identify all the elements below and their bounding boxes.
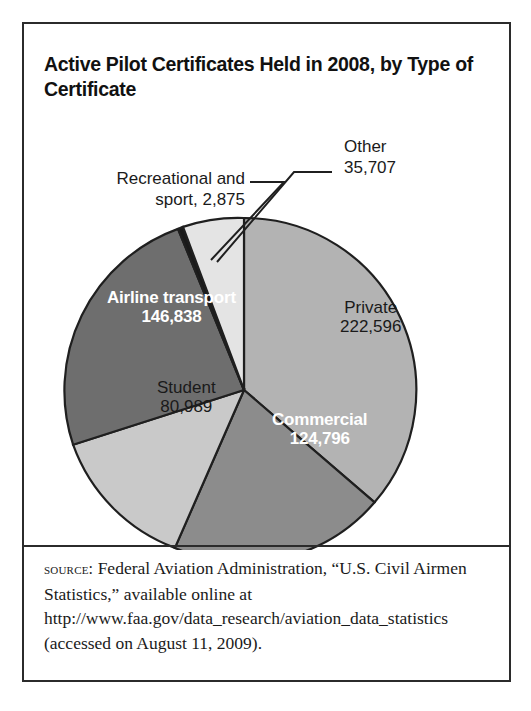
source-label: source: [44,560,93,577]
figure-title: Active Pilot Certificates Held in 2008, … [44,52,484,102]
source-text: Federal Aviation Administration, “U.S. C… [44,558,467,653]
pie-chart: Private 222,596 Commercial 124,796 Stude… [22,110,511,550]
source-divider [24,545,509,547]
figure-root: Active Pilot Certificates Held in 2008, … [0,0,531,711]
pie-slices [64,218,416,550]
pie-chart-svg [22,110,511,550]
source-note: source: Federal Aviation Administration,… [44,556,494,655]
